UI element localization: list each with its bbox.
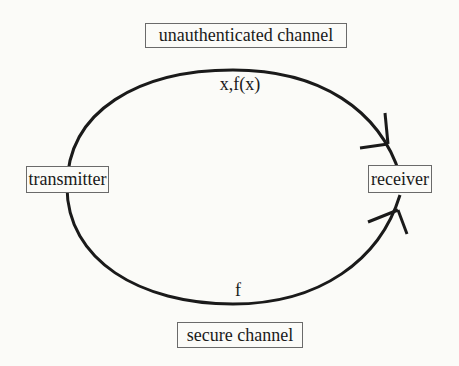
upper-edge-label: x,f(x) bbox=[220, 74, 260, 95]
secure-channel-box: secure channel bbox=[177, 322, 303, 348]
receiver-label: receiver bbox=[371, 169, 429, 190]
secure-channel-label: secure channel bbox=[187, 325, 293, 346]
unauthenticated-channel-box: unauthenticated channel bbox=[145, 23, 347, 48]
upper-arrowhead-icon bbox=[360, 113, 388, 148]
lower-channel-arc bbox=[67, 187, 400, 304]
lower-edge-label: f bbox=[235, 280, 241, 301]
unauthenticated-channel-label: unauthenticated channel bbox=[159, 25, 333, 46]
transmitter-box: transmitter bbox=[26, 166, 109, 193]
transmitter-label: transmitter bbox=[29, 169, 107, 190]
receiver-box: receiver bbox=[368, 165, 432, 193]
